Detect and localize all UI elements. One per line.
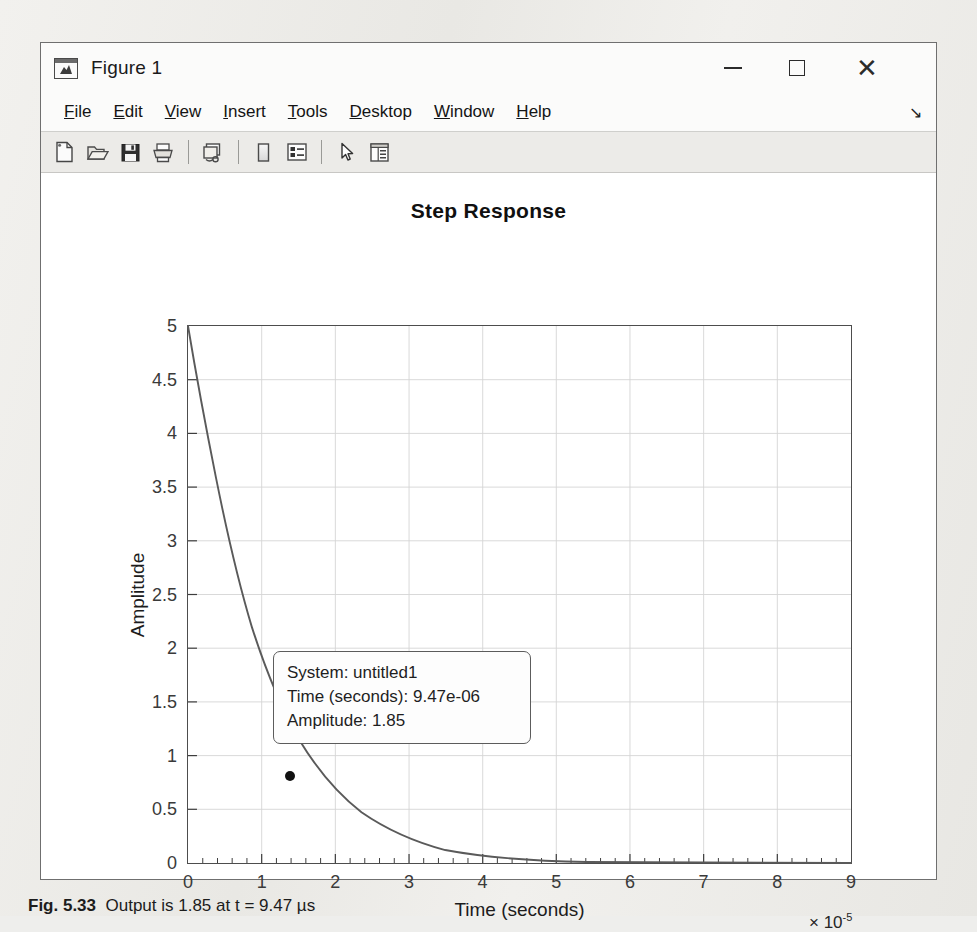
ytick-label-8: 4 <box>167 423 177 444</box>
xtick-label-3: 3 <box>404 872 414 893</box>
x-axis-exponent-base: × 10 <box>809 913 843 932</box>
x-axis-exponent: × 10-5 <box>809 911 852 932</box>
data-tip-time: Time (seconds): 9.47e-06 <box>287 685 517 709</box>
xtick-label-2: 2 <box>330 872 340 893</box>
menu-label-help: elp <box>529 102 552 121</box>
menu-label-view: iew <box>176 102 202 121</box>
menu-item-tools[interactable]: Tools <box>277 102 339 122</box>
maximize-button[interactable] <box>768 43 826 93</box>
ytick-label-7: 3.5 <box>152 477 177 498</box>
edit-plot-icon[interactable] <box>331 137 362 168</box>
menu-label-window: indow <box>450 102 494 121</box>
ytick-label-2: 1 <box>167 745 177 766</box>
data-tip-amplitude: Amplitude: 1.85 <box>287 709 517 733</box>
link-plot-icon[interactable] <box>198 137 229 168</box>
menu-item-help[interactable]: Help <box>505 102 562 122</box>
figure-caption-number: Fig. 5.33 <box>28 896 96 915</box>
matlab-figure-icon <box>54 58 78 79</box>
data-tip[interactable]: System: untitled1 Time (seconds): 9.47e-… <box>273 651 531 744</box>
maximize-icon <box>789 60 805 76</box>
window-title: Figure 1 <box>91 57 162 79</box>
menu-mnemonic-window: W <box>434 102 450 121</box>
ytick-label-0: 0 <box>167 853 177 874</box>
toolbar <box>41 132 936 173</box>
ytick-label-9: 4.5 <box>152 369 177 390</box>
menu-item-view[interactable]: View <box>154 102 213 122</box>
menu-item-window[interactable]: Window <box>423 102 505 122</box>
menu-label-desktop: esktop <box>362 102 412 121</box>
x-axis-exponent-power: -5 <box>843 911 853 923</box>
toolbar-separator-1 <box>188 140 189 164</box>
menu-item-file[interactable]: File <box>53 102 102 122</box>
toolbar-separator-3 <box>321 140 322 164</box>
save-figure-icon[interactable] <box>115 137 146 168</box>
ytick-label-5: 2.5 <box>152 584 177 605</box>
menu-overflow-icon[interactable]: ↘ <box>909 103 922 122</box>
menu-mnemonic-file: F <box>64 102 74 121</box>
colorbar-icon[interactable] <box>248 137 279 168</box>
step-response-curve <box>188 326 851 863</box>
menu-item-insert[interactable]: Insert <box>212 102 277 122</box>
title-bar: Figure 1 ✕ <box>41 43 936 93</box>
menu-mnemonic-view: V <box>165 102 176 121</box>
menu-mnemonic-edit: E <box>113 102 124 121</box>
menu-label-file: ile <box>74 102 91 121</box>
ytick-label-10: 5 <box>167 316 177 337</box>
menu-mnemonic-desktop: D <box>350 102 362 121</box>
ytick-label-4: 2 <box>167 638 177 659</box>
y-axis-label: Amplitude <box>127 552 149 637</box>
print-figure-icon[interactable] <box>148 137 179 168</box>
figure-canvas: Step Response <box>41 173 936 879</box>
menu-label-insert: nsert <box>228 102 266 121</box>
new-figure-icon[interactable] <box>49 137 80 168</box>
figure-caption: Fig. 5.33 Output is 1.85 at t = 9.47 µs <box>28 896 315 916</box>
ytick-label-1: 0.5 <box>152 799 177 820</box>
open-file-icon[interactable] <box>82 137 113 168</box>
plot-axes: 0 0.5 1 1.5 2 2.5 3 3.5 4 4.5 5 0 1 2 3 … <box>187 325 852 864</box>
property-inspector-icon[interactable] <box>364 137 395 168</box>
menu-item-desktop[interactable]: Desktop <box>339 102 423 122</box>
xtick-label-0: 0 <box>183 872 193 893</box>
menu-item-edit[interactable]: Edit <box>102 102 153 122</box>
data-tip-marker[interactable] <box>285 771 295 781</box>
xtick-label-4: 4 <box>478 872 488 893</box>
minimize-button[interactable] <box>704 43 762 93</box>
ytick-label-3: 1.5 <box>152 691 177 712</box>
minimize-icon <box>724 67 742 69</box>
xtick-label-8: 8 <box>772 872 782 893</box>
xtick-label-1: 1 <box>257 872 267 893</box>
figure-caption-text: Output is 1.85 at t = 9.47 µs <box>105 896 315 915</box>
xtick-label-5: 5 <box>551 872 561 893</box>
figure-window: Figure 1 ✕ File Edit View Insert Tools D… <box>40 42 937 880</box>
close-button[interactable]: ✕ <box>838 43 896 93</box>
xtick-label-9: 9 <box>846 872 856 893</box>
close-icon: ✕ <box>856 55 878 81</box>
ytick-label-6: 3 <box>167 530 177 551</box>
toolbar-separator-2 <box>238 140 239 164</box>
menu-mnemonic-help: H <box>516 102 528 121</box>
xtick-label-7: 7 <box>699 872 709 893</box>
xtick-label-6: 6 <box>625 872 635 893</box>
legend-icon[interactable] <box>281 137 312 168</box>
data-tip-system: System: untitled1 <box>287 661 517 685</box>
menu-bar: File Edit View Insert Tools Desktop Wind… <box>41 93 936 132</box>
menu-label-edit: dit <box>125 102 143 121</box>
plot-title: Step Response <box>41 199 936 223</box>
menu-label-tools: ools <box>296 102 327 121</box>
